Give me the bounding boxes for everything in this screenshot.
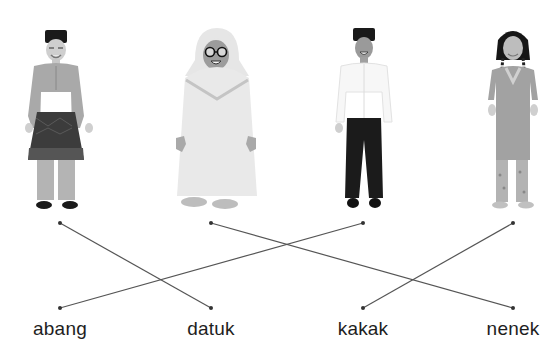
matching-exercise: abang datuk kakak nenek (0, 0, 556, 362)
label-nenek: nenek (487, 318, 540, 340)
figure-3-dot[interactable] (357, 217, 369, 229)
label-datuk-dot[interactable] (205, 302, 217, 314)
connection-layer (0, 0, 556, 362)
connection-line (211, 223, 513, 308)
connection-line (60, 223, 363, 308)
figure-2-dot[interactable] (205, 217, 217, 229)
figure-1-dot[interactable] (54, 217, 66, 229)
label-abang-dot[interactable] (54, 302, 66, 314)
connection-line (60, 223, 211, 308)
figure-4-dot[interactable] (507, 217, 519, 229)
label-kakak: kakak (338, 318, 389, 340)
label-kakak-dot[interactable] (357, 302, 369, 314)
connection-line (363, 223, 513, 308)
label-nenek-dot[interactable] (507, 302, 519, 314)
label-abang: abang (33, 318, 87, 340)
label-datuk: datuk (187, 318, 234, 340)
